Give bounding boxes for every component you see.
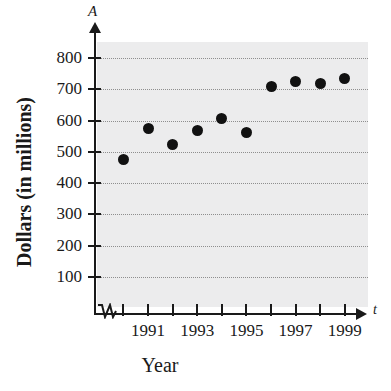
x-axis-break-icon <box>98 303 120 319</box>
x-tick-1996 <box>270 304 272 316</box>
gridline-500 <box>97 152 368 153</box>
y-tick-100 <box>88 276 101 278</box>
x-tick-1990 <box>122 304 124 316</box>
y-tick-label-300: 300 <box>34 205 82 222</box>
y-tick-800 <box>88 57 101 59</box>
y-axis-variable-label: A <box>88 4 97 19</box>
y-tick-600 <box>88 120 101 122</box>
data-point <box>192 125 203 136</box>
data-point <box>315 78 326 89</box>
data-point <box>266 81 277 92</box>
gridline-100 <box>97 277 368 278</box>
y-tick-label-400: 400 <box>34 174 82 191</box>
y-tick-label-800: 800 <box>34 49 82 66</box>
gridline-700 <box>97 89 368 90</box>
data-point <box>216 113 227 124</box>
gridline-200 <box>97 246 368 247</box>
x-tick-1999 <box>344 304 346 316</box>
y-tick-label-500: 500 <box>34 143 82 160</box>
data-point <box>290 76 301 87</box>
data-point <box>143 123 154 134</box>
scatter-plot-figure: A t 100200300400500600700800 19911993199… <box>0 0 391 391</box>
x-tick-1995 <box>245 304 247 316</box>
gridline-400 <box>97 183 368 184</box>
x-tick-1991 <box>147 304 149 316</box>
data-point <box>241 127 252 138</box>
y-tick-label-700: 700 <box>34 80 82 97</box>
gridline-800 <box>97 58 368 59</box>
gridline-300 <box>97 214 368 215</box>
y-tick-label-600: 600 <box>34 112 82 129</box>
data-point <box>118 154 129 165</box>
x-tick-label-1999: 1999 <box>315 322 375 339</box>
x-axis-title: Year <box>100 355 220 375</box>
y-axis-arrowhead <box>89 22 101 33</box>
plot-area-background <box>97 42 368 307</box>
gridline-600 <box>97 121 368 122</box>
y-tick-500 <box>88 151 101 153</box>
x-tick-1994 <box>221 304 223 316</box>
x-axis-variable-label: t <box>373 303 377 317</box>
x-axis-arrowhead <box>356 308 367 320</box>
y-tick-label-200: 200 <box>34 237 82 254</box>
x-tick-1993 <box>196 304 198 316</box>
x-tick-1998 <box>319 304 321 316</box>
y-tick-400 <box>88 182 101 184</box>
x-tick-1992 <box>172 304 174 316</box>
y-tick-200 <box>88 245 101 247</box>
y-tick-label-100: 100 <box>34 268 82 285</box>
y-tick-700 <box>88 88 101 90</box>
x-tick-1997 <box>295 304 297 316</box>
y-axis-title: Dollars (in millions) <box>14 72 34 292</box>
y-tick-300 <box>88 213 101 215</box>
y-axis-line <box>94 30 96 315</box>
